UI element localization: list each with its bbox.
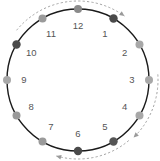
hour-dot-8[interactable] <box>13 112 21 120</box>
hour-label-6: 6 <box>75 128 80 139</box>
hour-label-2: 2 <box>122 47 127 58</box>
hour-labels-layer: 121234567891011 <box>21 20 134 139</box>
hour-dot-5[interactable] <box>109 137 117 145</box>
clock-cycle-figure: 121234567891011 <box>0 0 160 161</box>
clock-diagram-svg: 121234567891011 <box>0 0 160 161</box>
arrowhead <box>56 155 61 160</box>
hour-label-3: 3 <box>129 74 134 85</box>
rotation-arrows-layer <box>17 1 158 160</box>
hour-dot-6[interactable] <box>74 147 82 155</box>
hour-label-1: 1 <box>102 28 107 39</box>
hour-dot-2[interactable] <box>135 41 143 49</box>
hour-dot-4[interactable] <box>135 112 143 120</box>
hour-label-5: 5 <box>102 121 107 132</box>
hour-label-9: 9 <box>21 74 26 85</box>
hour-dot-12[interactable] <box>74 5 82 13</box>
hour-dot-10[interactable] <box>12 40 20 48</box>
hour-label-10: 10 <box>26 47 37 58</box>
hour-label-7: 7 <box>48 121 53 132</box>
hour-label-11: 11 <box>46 28 56 39</box>
hour-dot-7[interactable] <box>39 137 47 145</box>
arrowhead <box>119 11 124 16</box>
hour-dot-11[interactable] <box>39 15 47 23</box>
hour-label-4: 4 <box>122 101 127 112</box>
hour-label-12: 12 <box>73 20 84 31</box>
dashed-arc <box>134 74 158 137</box>
hour-dot-9[interactable] <box>3 76 11 84</box>
hour-dot-1[interactable] <box>109 14 117 22</box>
hour-label-8: 8 <box>29 101 34 112</box>
right-clockwise-arrow <box>134 74 158 137</box>
hour-dot-3[interactable] <box>145 76 153 84</box>
